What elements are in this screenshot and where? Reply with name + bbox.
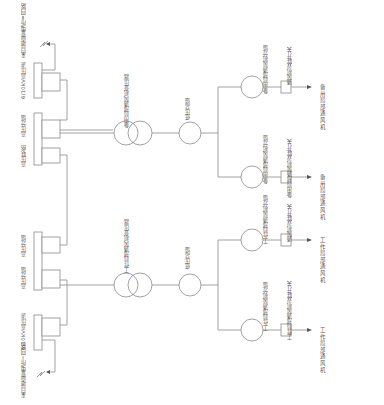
fan-switch-label-upper-2: 备用局部通风机双联开关 <box>286 140 292 198</box>
hv-tie-box-upper <box>42 148 60 163</box>
incoming-switch-box-upper <box>42 73 60 91</box>
hv-bar-lower <box>34 232 42 290</box>
fan-label-upper-2: 备用局部通风机 <box>320 174 326 220</box>
lv-breaker-lower <box>179 274 201 296</box>
lv-breaker-upper <box>179 122 201 144</box>
hv-switch-label-lower-2: 高压分馈 <box>20 268 26 289</box>
source-line-lower <box>42 340 55 372</box>
arrow-icon-fan-lower-2 <box>307 328 312 332</box>
fan-switch-label-lower-1: 通风机双联开关 <box>286 205 292 242</box>
fan-label-upper-1: 备用局部通风机 <box>320 84 326 130</box>
hv-switch-box-lower-1 <box>42 237 60 253</box>
single-line-diagram <box>0 0 384 405</box>
fan-label-lower-2: 工作局部通风机 <box>320 327 326 373</box>
lightning-icon-lower <box>37 371 45 377</box>
tie-line <box>60 155 67 245</box>
transformer-label-lower: 工作局部通风机变压器 <box>123 220 129 273</box>
fan-feeder-label-lower-1: 工作局部通风机分馈 <box>262 196 268 244</box>
transformer-lower-circle1 <box>114 273 138 297</box>
lv-feeder-label-lower: 低压总馈 <box>184 248 190 269</box>
incoming-bar-upper <box>34 63 42 98</box>
hv-switch-label-lower-1: 高压分馈 <box>20 236 26 257</box>
transformer-upper-circle2 <box>128 121 152 145</box>
hv-tie-label-upper: 高压联络 <box>20 146 26 167</box>
transformer-label-upper: 备用局部通风机变压器 <box>123 75 129 128</box>
hv-switch-label-upper: 高压分馈 <box>20 116 26 137</box>
incoming-label-upper: 6/10kV高压进 <box>20 63 26 99</box>
incoming-switch-box-lower <box>42 318 60 336</box>
lv-feeder-label-upper: 低压总馈 <box>184 99 190 120</box>
fan-switch-label-upper-1: 通风机双联开关 <box>286 48 292 85</box>
source-line-upper <box>47 44 55 70</box>
source-label-upper: 来自地面变电所Ⅱ回路 <box>20 4 26 58</box>
hv-bar-upper <box>34 113 42 165</box>
arrow-icon-fan-lower-1 <box>307 238 312 242</box>
arrow-icon-fan-upper-1 <box>307 85 312 89</box>
fan-feeder-label-lower-2: 工作局部通风机分馈 <box>262 283 268 331</box>
arrow-icon-lower-source <box>46 370 50 374</box>
arrow-icon-fan-upper-2 <box>307 175 312 179</box>
fan-label-lower-1: 工作局部通风机 <box>320 237 326 283</box>
fan-feeder-label-upper-1: 备用局部通风机分馈 <box>262 46 268 94</box>
hv-switch-box-lower-2 <box>42 270 60 288</box>
hv-switch-box-upper <box>42 120 60 138</box>
source-label-lower: 来自地面变电所Ⅰ回路 <box>20 344 26 398</box>
transformer-lower-circle2 <box>128 273 152 297</box>
incoming-bar-lower <box>34 315 42 350</box>
fan-switch-label-lower-2: 工作局部通风机双联开关 <box>286 282 292 340</box>
fan-feeder-label-upper-2: 备用局部通风机分馈 <box>262 136 268 184</box>
